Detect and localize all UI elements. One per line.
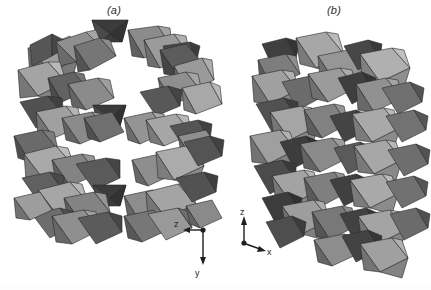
- polyhedron: [350, 174, 398, 214]
- axis-label-z-b: z: [240, 207, 245, 217]
- scan-edge-artifact: [0, 286, 431, 290]
- axis-label-z-a: z: [174, 219, 179, 229]
- axis-arrow-y-a: [200, 257, 206, 265]
- axis-indicator-a: [183, 227, 206, 265]
- axis-arrow-x-b: [257, 246, 266, 252]
- axis-line-x-b: [246, 244, 260, 249]
- polyhedron: [78, 212, 122, 244]
- polyhedron: [140, 86, 182, 116]
- panel-label-a: (a): [107, 4, 121, 16]
- panel-b-polyhedra: [250, 32, 430, 278]
- axis-arrow-z-b: [241, 216, 247, 225]
- axis-indicator-b: [241, 216, 266, 252]
- panel-a-polyhedra: [14, 20, 224, 244]
- axis-label-x-b: x: [267, 247, 272, 257]
- axis-label-y-a: y: [195, 268, 200, 278]
- axis-origin-dot-b: [241, 240, 246, 245]
- figure-canvas: (a) (b): [0, 0, 431, 290]
- polyhedron: [266, 216, 306, 248]
- polyhedron: [182, 82, 222, 114]
- structure-drawing: [0, 0, 431, 290]
- panel-label-b: (b): [327, 4, 341, 16]
- axis-origin-dot-a: [200, 227, 205, 232]
- polyhedron: [360, 238, 408, 278]
